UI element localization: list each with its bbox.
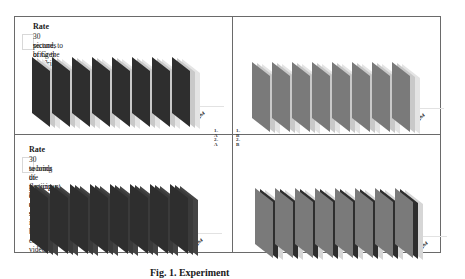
horizontal-divider	[14, 134, 441, 135]
panel-label-2a: 2-A	[214, 137, 218, 147]
panel-1a-title: Rate	[33, 22, 49, 31]
panel-label-2b: 2-B	[236, 137, 240, 147]
figure-caption: Fig. 1. Experiment	[150, 267, 229, 278]
panel-2a-title: Rate	[29, 145, 45, 154]
